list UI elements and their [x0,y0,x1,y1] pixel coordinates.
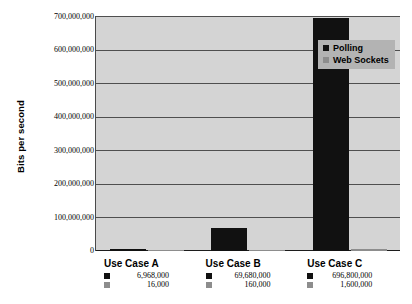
category-label-use-case-c: Use Case C [307,258,400,270]
bar-websockets-use-case-a [148,250,184,251]
polling-swatch-icon [323,45,329,51]
value-row-polling-use-case-c: 696,800,000 [307,271,400,280]
value-row-websockets-use-case-b: 160,000 [206,280,299,289]
websockets-swatch-icon [307,282,313,288]
legend-label-websockets: Web Sockets [333,55,389,65]
gridline-700000000 [96,16,400,17]
y-tick-label-100000000: 100,000,000 [14,214,94,222]
bar-polling-use-case-a [110,249,146,251]
value-websockets-use-case-b: 160,000 [215,280,271,289]
y-tick-label-300000000: 300,000,000 [14,147,94,155]
value-row-polling-use-case-b: 69,680,000 [206,271,299,280]
value-row-polling-use-case-a: 6,968,000 [104,271,197,280]
gridline-400000000 [96,117,400,118]
bar-websockets-use-case-c [351,249,387,252]
polling-swatch-icon [206,273,212,279]
websockets-swatch-icon [323,57,329,63]
category-column-use-case-c: Use Case C 696,800,000 1,600,000 [298,258,400,289]
category-value-table: Use Case A 6,968,000 16,000 Use Case B 6… [95,258,400,289]
value-row-websockets-use-case-a: 16,000 [104,280,197,289]
gridline-500000000 [96,83,400,84]
legend-item-polling: Polling [323,43,389,53]
value-polling-use-case-c: 696,800,000 [316,271,372,280]
y-axis-title-label: Bits per second [15,100,26,173]
value-row-websockets-use-case-c: 1,600,000 [307,280,400,289]
polling-swatch-icon [104,273,110,279]
legend-item-websockets: Web Sockets [323,55,389,65]
chart-legend: Polling Web Sockets [318,40,395,69]
gridline-200000000 [96,184,400,185]
y-tick-label-600000000: 600,000,000 [14,46,94,54]
websockets-swatch-icon [206,282,212,288]
value-polling-use-case-a: 6,968,000 [113,271,169,280]
y-axis-title: Bits per second [13,84,27,188]
value-polling-use-case-b: 69,680,000 [215,271,271,280]
polling-swatch-icon [307,273,313,279]
category-column-use-case-b: Use Case B 69,680,000 160,000 [197,258,299,289]
websockets-swatch-icon [104,282,110,288]
gridline-100000000 [96,217,400,218]
y-tick-label-200000000: 200,000,000 [14,180,94,188]
value-websockets-use-case-c: 1,600,000 [316,280,372,289]
bar-polling-use-case-b [211,228,247,251]
bar-websockets-use-case-b [249,250,285,251]
y-tick-label-0: 0 [14,247,94,255]
value-websockets-use-case-a: 16,000 [113,280,169,289]
y-tick-label-500000000: 500,000,000 [14,80,94,88]
y-tick-label-400000000: 400,000,000 [14,113,94,121]
gridline-300000000 [96,150,400,151]
legend-label-polling: Polling [333,43,363,53]
category-label-use-case-b: Use Case B [206,258,299,270]
category-column-use-case-a: Use Case A 6,968,000 16,000 [95,258,197,289]
category-label-use-case-a: Use Case A [104,258,197,270]
y-tick-label-700000000: 700,000,000 [14,13,94,21]
